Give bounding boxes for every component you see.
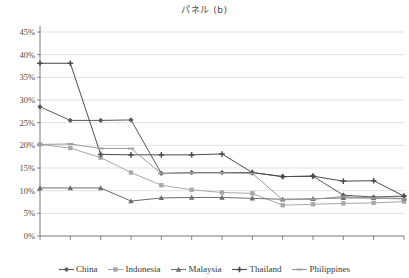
legend-marker-dash-icon — [292, 265, 307, 274]
data-point-marker — [189, 152, 195, 158]
data-point-marker — [237, 267, 243, 273]
data-point-marker — [98, 118, 103, 123]
data-point-marker — [310, 173, 316, 179]
y-axis-tick-label: 10% — [19, 186, 35, 196]
y-axis-tick-label: 0% — [24, 231, 35, 241]
data-point-marker — [129, 170, 133, 174]
legend-label: China — [76, 265, 98, 274]
legend-item-indonesia[interactable]: Indonesia — [108, 265, 160, 274]
chart-container: パネル (b) 0%5%10%15%20%25%30%35%40%45%1993… — [0, 0, 409, 278]
y-axis-tick-label: 30% — [19, 95, 35, 105]
data-point-marker — [37, 60, 43, 66]
data-point-marker — [128, 117, 133, 122]
legend-label: Thailand — [249, 265, 281, 274]
legend-marker-cross-icon — [232, 265, 247, 274]
legend-item-china[interactable]: China — [59, 265, 98, 274]
data-point-marker — [37, 104, 42, 109]
data-point-marker — [68, 146, 72, 150]
legend-label: Philippines — [309, 265, 350, 274]
data-point-marker — [64, 267, 69, 272]
data-point-marker — [128, 152, 134, 158]
data-point-marker — [341, 201, 345, 205]
y-axis-tick-label: 5% — [24, 208, 35, 218]
y-axis-tick-label: 35% — [19, 72, 35, 82]
data-point-marker — [311, 202, 315, 206]
data-point-marker — [220, 190, 224, 194]
data-point-marker — [250, 191, 254, 195]
y-axis-tick-label: 15% — [19, 163, 35, 173]
y-axis-tick-label: 40% — [19, 50, 35, 60]
legend-marker-square-icon — [108, 265, 123, 274]
chart-legend: ChinaIndonesiaMalaysiaThailandPhilippine… — [0, 265, 409, 274]
legend-label: Malaysia — [188, 265, 221, 274]
plot-area: 0%5%10%15%20%25%30%35%40%45%199319941995… — [0, 20, 409, 242]
line-chart-svg: 0%5%10%15%20%25%30%35%40%45%199319941995… — [0, 20, 409, 242]
legend-marker-diamond-icon — [59, 265, 74, 274]
legend-item-philippines[interactable]: Philippines — [292, 265, 350, 274]
data-point-marker — [341, 178, 347, 184]
data-point-marker — [371, 201, 375, 205]
y-axis-tick-label: 20% — [19, 140, 35, 150]
series-line-thailand — [40, 63, 404, 196]
legend-item-thailand[interactable]: Thailand — [232, 265, 281, 274]
legend-marker-triangle-icon — [171, 265, 186, 274]
data-point-marker — [280, 174, 286, 180]
data-point-marker — [159, 152, 165, 158]
data-point-marker — [280, 203, 284, 207]
data-point-marker — [219, 151, 225, 157]
y-axis-tick-label: 25% — [19, 118, 35, 128]
data-point-marker — [114, 267, 118, 271]
y-axis-tick-label: 45% — [19, 27, 35, 37]
chart-title: パネル (b) — [0, 3, 409, 16]
legend-label: Indonesia — [125, 265, 160, 274]
data-point-marker — [68, 118, 73, 123]
legend-item-malaysia[interactable]: Malaysia — [171, 265, 221, 274]
data-point-marker — [371, 178, 377, 184]
data-point-marker — [159, 183, 163, 187]
data-point-marker — [68, 60, 74, 66]
data-point-marker — [189, 188, 193, 192]
